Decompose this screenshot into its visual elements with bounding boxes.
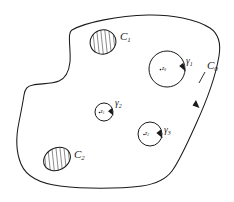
hatched-region-c2 xyxy=(39,143,74,176)
outer-boundary-direction-arrow xyxy=(193,100,200,108)
c0-leader-line xyxy=(199,72,205,83)
label-gamma3: γ3 xyxy=(164,126,171,136)
label-c0: C0 xyxy=(207,60,218,71)
contour-gamma3 xyxy=(138,122,163,146)
label-gamma2: γ2 xyxy=(115,99,122,109)
point-label-z0: z0 xyxy=(162,66,166,72)
contour-gamma1 xyxy=(149,51,186,87)
label-c1: C1 xyxy=(120,31,131,42)
label-gamma1: γ1 xyxy=(186,57,193,67)
point-label-z2: z2 xyxy=(145,131,149,137)
hatched-region-c1 xyxy=(87,27,119,58)
label-c2: C2 xyxy=(74,149,85,160)
point-label-z1: z1 xyxy=(101,109,105,115)
contour-diagram-figure: C1 C2 C0 γ1 γ2 γ3 z0 z1 z2 xyxy=(0,0,234,202)
